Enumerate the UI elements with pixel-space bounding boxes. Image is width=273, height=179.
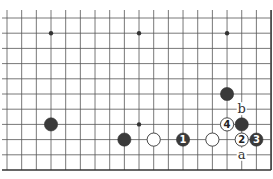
white-stone-icon [147,133,160,146]
black-stone-1: 1 [176,133,189,146]
white-stone [206,133,219,146]
white-stone [147,133,160,146]
star-point-icon [225,31,229,35]
black-stone-3: 3 [250,133,263,146]
white-stone-2: 2 [235,133,248,146]
black-stone-icon [220,87,233,100]
white-stone-4: 4 [220,118,233,131]
star-point-icon [137,122,141,126]
go-board-diagram: ba 1423 [0,0,273,179]
black-stone-icon [235,118,248,131]
black-stone [44,118,57,131]
black-stone [118,133,131,146]
black-stone-icon [118,133,131,146]
star-point-icon [49,31,53,35]
move-number: 1 [180,134,187,145]
move-number: 4 [224,119,231,130]
move-number: 3 [253,134,260,145]
point-label-a: a [238,147,246,162]
star-point-icon [137,31,141,35]
white-stone-icon [206,133,219,146]
move-number: 2 [238,134,245,145]
black-stone [235,118,248,131]
black-stone-icon [44,118,57,131]
point-label-b: b [238,101,246,116]
black-stone [220,87,233,100]
